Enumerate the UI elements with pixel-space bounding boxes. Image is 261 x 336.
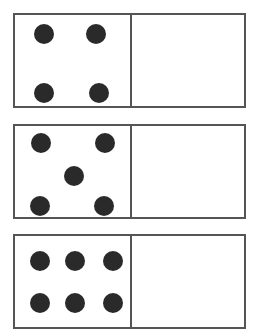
pip-dot-icon <box>86 24 106 44</box>
pip-dot-icon <box>103 293 123 313</box>
pip-dot-icon <box>31 133 51 153</box>
pip-dot-icon <box>34 83 54 103</box>
pip-dot-icon <box>34 24 54 44</box>
domino-3 <box>13 234 246 329</box>
pip-dot-icon <box>65 293 85 313</box>
pip-dot-icon <box>94 196 114 216</box>
domino-left-half <box>15 126 132 217</box>
domino-left-half <box>15 15 132 106</box>
domino-right-half-blank[interactable] <box>132 236 244 327</box>
pip-dot-icon <box>65 251 85 271</box>
domino-right-half-blank[interactable] <box>132 126 244 217</box>
pip-dot-icon <box>30 293 50 313</box>
pip-dot-icon <box>30 196 50 216</box>
pip-dot-icon <box>103 251 123 271</box>
pip-dot-icon <box>95 133 115 153</box>
pip-dot-icon <box>30 251 50 271</box>
domino-2 <box>13 124 246 219</box>
domino-1 <box>13 13 246 108</box>
pip-dot-icon <box>89 83 109 103</box>
pip-dot-icon <box>64 166 84 186</box>
domino-left-half <box>15 236 132 327</box>
domino-right-half-blank[interactable] <box>132 15 244 106</box>
